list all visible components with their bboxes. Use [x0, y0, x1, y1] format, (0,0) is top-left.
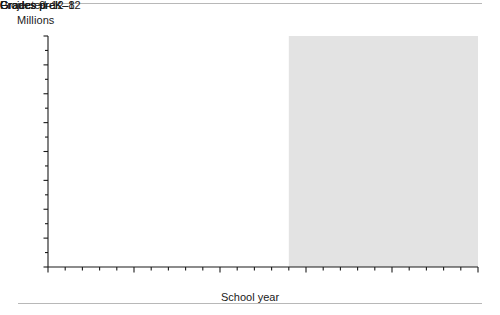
x-axis-title: School year — [0, 291, 500, 303]
chart-canvas — [0, 0, 500, 315]
series-label-grades912: Grades 9–12 — [0, 0, 64, 11]
chart-figure: Millions Projected Grades preK–12 Grades… — [0, 0, 500, 315]
